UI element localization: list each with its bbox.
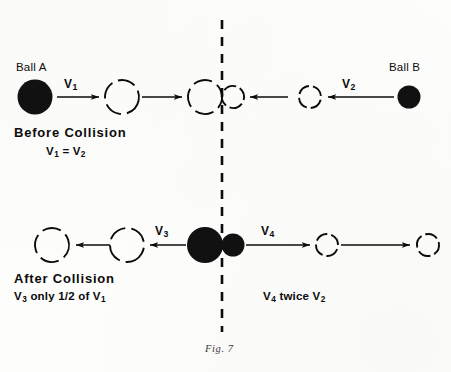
velocity-v2-symbol: V bbox=[342, 77, 350, 91]
relation-operator: = V bbox=[59, 145, 81, 157]
relation-sub-2: 2 bbox=[81, 150, 86, 159]
velocity-v4-subscript: 4 bbox=[269, 229, 274, 239]
ball-b-ghost-position-1 bbox=[296, 83, 324, 111]
velocity-label-v4: V4 bbox=[261, 225, 275, 239]
velocity-label-v1: V1 bbox=[64, 78, 78, 92]
ball-b-after-ghost-position-1 bbox=[312, 230, 341, 259]
before-collision-label: Before Collision bbox=[14, 126, 126, 139]
velocity-v4-symbol: V bbox=[261, 224, 269, 238]
figure-caption: Fig. 7 bbox=[205, 344, 234, 355]
before-collision-relation: V1 = V2 bbox=[46, 146, 86, 160]
note-right-sub-2: 2 bbox=[320, 295, 325, 304]
velocity-label-v3: V3 bbox=[155, 225, 169, 239]
ball-a-ghost-position-1 bbox=[102, 77, 142, 117]
figure-container: Ball A Ball B V1 V2 Before Collision V1 … bbox=[0, 0, 451, 372]
ball-b-after-ghost-position-2 bbox=[415, 232, 441, 258]
note-right-text: twice V bbox=[276, 290, 320, 302]
ball-b-solid bbox=[398, 86, 421, 109]
ball-a-label: Ball A bbox=[16, 62, 47, 74]
note-left-text: only 1/2 of V bbox=[27, 290, 101, 302]
ball-a-after-ghost-position-1 bbox=[104, 222, 150, 268]
collision-diagram-canvas bbox=[0, 0, 451, 372]
note-left-sub-2: 1 bbox=[101, 295, 106, 304]
velocity-label-v2: V2 bbox=[342, 78, 356, 92]
ball-b-after-solid bbox=[222, 234, 245, 257]
velocity-v3-symbol: V bbox=[155, 224, 163, 238]
velocity-v1-symbol: V bbox=[64, 77, 72, 91]
velocity-v1-subscript: 1 bbox=[72, 82, 77, 92]
ball-a-after-ghost-position-2 bbox=[31, 224, 74, 267]
after-collision-label: After Collision bbox=[14, 272, 115, 285]
ball-a-after-solid bbox=[187, 227, 223, 263]
ball-a-solid bbox=[18, 80, 53, 115]
velocity-v3-subscript: 3 bbox=[163, 229, 168, 239]
after-collision-note-right: V4 twice V2 bbox=[263, 291, 326, 305]
relation-v-1: V bbox=[46, 145, 54, 157]
note-right-v: V bbox=[263, 290, 271, 302]
after-collision-note-left: V3 only 1/2 of V1 bbox=[14, 291, 106, 305]
ball-b-label: Ball B bbox=[389, 62, 420, 74]
velocity-v2-subscript: 2 bbox=[350, 82, 355, 92]
note-left-v: V bbox=[14, 290, 22, 302]
